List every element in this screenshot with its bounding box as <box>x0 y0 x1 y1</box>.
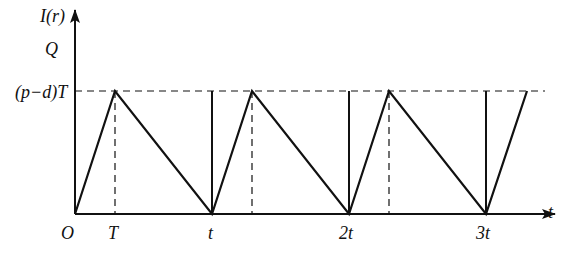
origin-label: O <box>61 223 74 243</box>
x-axis-label: t <box>548 202 554 222</box>
tick-label-T: T <box>108 223 120 243</box>
inventory-curve <box>75 91 527 214</box>
inventory-diagram: I(r) Q (p−d)T O T t 2t 3t t <box>0 0 565 253</box>
tick-label-3t: 3t <box>475 223 491 243</box>
tick-label-t: t <box>208 223 214 243</box>
y-axis-label: I(r) <box>39 6 65 27</box>
q-label: Q <box>45 39 58 59</box>
peak-level-label: (p−d)T <box>15 82 69 103</box>
tick-label-2t: 2t <box>339 223 354 243</box>
